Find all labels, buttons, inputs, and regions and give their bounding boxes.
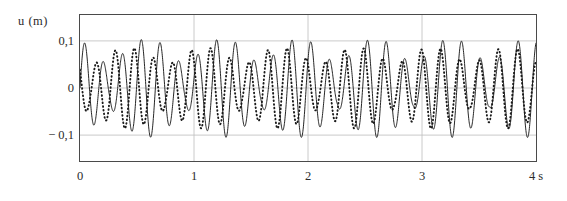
y-tick-label-0: 0,1	[58, 33, 74, 48]
y-axis-title: u (m)	[18, 14, 48, 29]
waveform-plot	[80, 15, 536, 161]
y-tick-label-2: − 0,1	[48, 128, 74, 143]
plot-area	[79, 14, 537, 162]
chart-container: u (m) 0,10− 0,1 01234 s	[0, 0, 567, 201]
y-tick-label-1: 0	[68, 81, 74, 96]
x-axis-unit-label: 4 s	[529, 169, 543, 184]
x-tick-label-0: 0	[77, 169, 83, 184]
x-tick-label-3: 3	[419, 169, 425, 184]
x-tick-label-2: 2	[305, 169, 311, 184]
x-tick-label-1: 1	[191, 169, 197, 184]
